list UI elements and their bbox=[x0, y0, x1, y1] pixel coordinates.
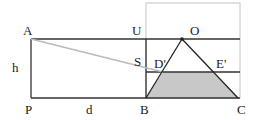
label-h: h bbox=[12, 60, 19, 75]
sight-line-AS bbox=[31, 39, 163, 72]
label-d: d bbox=[86, 102, 93, 117]
label-B: B bbox=[140, 102, 149, 117]
label-U: U bbox=[132, 23, 142, 38]
point-O bbox=[180, 37, 184, 41]
label-S: S bbox=[134, 54, 141, 69]
label-O: O bbox=[190, 23, 199, 38]
label-P: P bbox=[25, 102, 32, 117]
label-D-prime: D' bbox=[154, 56, 166, 71]
label-E-prime: E' bbox=[216, 56, 226, 71]
geometry-diagram: A h P d U S B O D' E' C bbox=[0, 0, 255, 120]
label-A: A bbox=[23, 23, 33, 38]
label-C: C bbox=[237, 102, 246, 117]
